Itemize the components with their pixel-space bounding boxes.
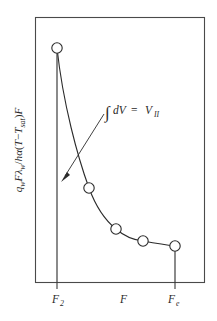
tick-label-F2-symbol: F: [51, 293, 60, 305]
chart-svg: ∫ dV = V II F 2 F F e qwFλw/hα(T−Tsat)F: [0, 0, 217, 321]
tick-label-Fe: F e: [167, 293, 180, 308]
y-axis-label: qwFλw/hα(T−Tsat)F: [12, 108, 27, 193]
ylabel-F1: F: [12, 174, 24, 182]
data-point: [111, 224, 121, 234]
tick-label-F-symbol: F: [119, 293, 128, 305]
annotation-dv: dV: [113, 104, 128, 116]
tick-label-F2: F 2: [51, 293, 64, 308]
svg-text:qwFλw/hα(T−Tsat)F: qwFλw/hα(T−Tsat)F: [12, 108, 27, 193]
tick-label-Fe-subscript: e: [176, 299, 180, 308]
chart-figure: ∫ dV = V II F 2 F F e qwFλw/hα(T−Tsat)F: [0, 0, 217, 321]
data-point: [170, 241, 180, 251]
ylabel-F2: F: [12, 108, 24, 116]
data-point: [84, 183, 94, 193]
data-point: [138, 236, 148, 246]
tick-label-F2-subscript: 2: [60, 299, 64, 308]
tick-label-F: F: [119, 293, 128, 305]
annotation-result-subscript: II: [153, 110, 160, 119]
tick-label-Fe-symbol: F: [167, 293, 176, 305]
data-point: [52, 43, 62, 53]
annotation-equals: =: [131, 104, 138, 116]
